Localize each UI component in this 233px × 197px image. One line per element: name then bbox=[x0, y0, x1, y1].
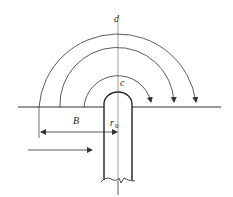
diagram-canvas: d c B r 0 bbox=[0, 0, 233, 197]
label-r-subscript: 0 bbox=[115, 122, 119, 130]
label-r: r bbox=[110, 117, 114, 128]
label-d: d bbox=[114, 13, 120, 24]
label-c: c bbox=[120, 77, 125, 88]
label-b: B bbox=[73, 115, 79, 126]
